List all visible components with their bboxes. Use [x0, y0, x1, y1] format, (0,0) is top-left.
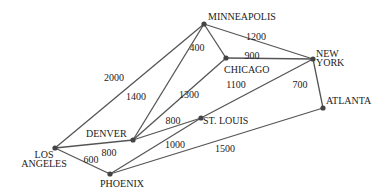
edge-weight-label: 1100	[226, 79, 246, 90]
city-label-denver: DENVER	[86, 128, 127, 139]
edge-los-angeles-denver	[55, 140, 133, 148]
city-distance-graph: 2000140040012009001300110070080080060010…	[0, 0, 391, 195]
city-label-chicago: CHICAGO	[224, 64, 270, 75]
node-chicago	[223, 55, 228, 60]
city-label-phoenix: PHOENIX	[100, 178, 145, 189]
edge-weight-label: 700	[293, 79, 308, 90]
edge-weight-label: 800	[166, 115, 181, 126]
edge-weight-label: 900	[245, 50, 260, 61]
edge-weight-label: 400	[190, 42, 205, 53]
node-denver	[130, 137, 135, 142]
node-atlanta	[320, 105, 325, 110]
edge-minneapolis-chicago	[204, 24, 226, 58]
city-label-atlanta: ATLANTA	[326, 95, 372, 106]
edge-weight-label: 1300	[179, 89, 199, 100]
city-label-new-york: NEWYORK	[316, 48, 345, 68]
edge-weight-label: 800	[102, 147, 117, 158]
node-minneapolis	[201, 21, 206, 26]
edge-weights: 2000140040012009001300110070080080060010…	[84, 31, 308, 165]
edge-weight-label: 1400	[126, 91, 146, 102]
edge-weight-label: 2000	[104, 72, 124, 83]
node-new-york	[310, 56, 315, 61]
edge-phoenix-st-louis	[110, 118, 201, 174]
edge-chicago-new-york	[226, 58, 313, 59]
city-label-minneapolis: MINNEAPOLIS	[208, 11, 276, 22]
edge-weight-label: 600	[84, 154, 99, 165]
edge-weight-label: 1200	[246, 31, 266, 42]
node-phoenix	[107, 171, 112, 176]
city-labels: MINNEAPOLISCHICAGONEWYORKATLANTAST. LOUI…	[21, 11, 372, 189]
edge-weight-label: 1000	[165, 139, 185, 150]
edge-weight-label: 1500	[215, 143, 235, 154]
city-label-los-angeles: LOSANGELES	[21, 149, 67, 169]
city-label-st-louis: ST. LOUIS	[203, 115, 248, 126]
